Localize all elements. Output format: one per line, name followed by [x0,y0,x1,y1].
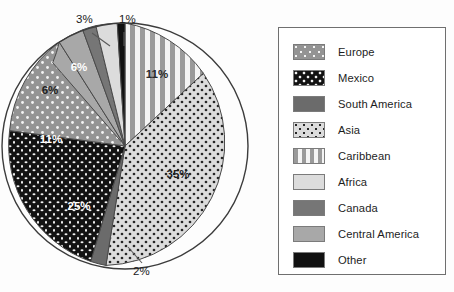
legend-item-other[interactable]: Other [293,247,439,273]
slice-value-mexico: 25% [67,200,90,212]
slice-value-asia: 35% [166,168,189,180]
legend-label-europe: Europe [338,46,375,58]
slice-value-canada: 6% [71,61,88,73]
slice-value-central-america: 6% [42,84,59,96]
legend-item-canada[interactable]: Canada [293,195,439,221]
legend-label-other: Other [338,254,366,266]
legend-item-south-america[interactable]: South America [293,91,439,117]
callout-label-africa: 3% [76,13,93,25]
slice-value-europe: 11% [40,133,62,145]
legend-label-south-america: South America [338,98,412,110]
legend-item-list: Europe Mexico South America Asia Caribbe… [293,39,439,273]
legend-label-africa: Africa [338,176,367,188]
legend-swatch-africa [293,174,325,190]
legend-swatch-south-america [293,96,325,112]
legend-swatch-other [293,252,325,268]
legend-item-caribbean[interactable]: Caribbean [293,143,439,169]
legend-swatch-central-america [293,226,325,242]
legend-swatch-mexico [293,70,325,86]
slice-value-caribbean: 11% [146,68,168,80]
legend-item-europe[interactable]: Europe [293,39,439,65]
legend-item-mexico[interactable]: Mexico [293,65,439,91]
pie-chart-canvas: 11% 35% 25% 11% 6% 6% [0,0,280,292]
chart-legend: Europe Mexico South America Asia Caribbe… [278,27,446,275]
legend-label-canada: Canada [338,202,378,214]
legend-item-asia[interactable]: Asia [293,117,439,143]
legend-label-asia: Asia [338,124,360,136]
legend-item-africa[interactable]: Africa [293,169,439,195]
callout-label-south-america: 2% [133,265,150,277]
legend-swatch-canada [293,200,325,216]
legend-label-central-america: Central America [338,228,419,240]
legend-swatch-asia [293,122,325,138]
legend-swatch-europe [293,44,325,60]
pie-chart-figure: 11% 35% 25% 11% 6% 6% 3% 1% 2% Europe Me… [0,0,454,292]
legend-label-mexico: Mexico [338,72,374,84]
callout-label-other: 1% [119,13,136,25]
legend-swatch-caribbean [293,148,325,164]
legend-item-central-america[interactable]: Central America [293,221,439,247]
legend-label-caribbean: Caribbean [338,150,391,162]
